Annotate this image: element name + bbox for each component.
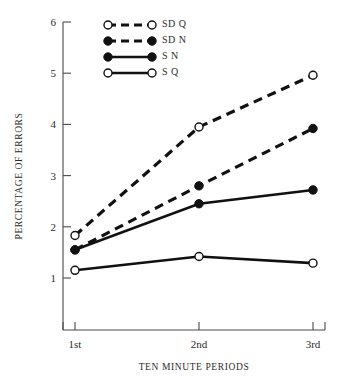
legend-marker [148,53,156,61]
legend-marker [104,69,112,77]
chart-series [71,186,317,254]
legend-item: S N [104,50,179,61]
legend-item: SD Q [104,18,187,29]
legend-marker [104,53,112,61]
y-tick-label: 4 [51,118,57,130]
data-point-marker [309,71,317,79]
legend-item: SD N [104,34,187,45]
x-axis-ticks: 1st2nd3rd [69,322,321,350]
legend-item: S Q [104,66,179,77]
series-line [75,190,313,250]
chart-series [71,252,317,274]
legend-marker [148,21,156,29]
data-point-marker [71,246,79,254]
legend-marker [148,69,156,77]
series-line [75,128,313,249]
y-tick-label: 3 [51,170,57,182]
legend-marker [104,21,112,29]
data-point-marker [309,186,317,194]
y-tick-label: 6 [51,16,57,28]
chart-figure: 123456 1st2nd3rd SD QSD NS NS Q TEN MINU… [0,0,352,386]
chart-series [71,71,317,239]
y-tick-label: 2 [51,221,57,233]
data-point-marker [71,266,79,274]
legend-label: S N [162,50,179,61]
y-axis-ticks: 123456 [51,16,72,284]
data-point-marker [309,259,317,267]
data-point-marker [195,252,203,260]
legend-marker [104,37,112,45]
data-point-marker [71,232,79,240]
x-tick-label: 3rd [306,338,321,350]
series-line [75,256,313,270]
chart-series [71,124,317,254]
chart-legend: SD QSD NS NS Q [104,18,187,77]
data-point-marker [195,200,203,208]
data-point-marker [195,182,203,190]
x-tick-label: 2nd [191,338,208,350]
legend-label: S Q [162,66,179,77]
legend-marker [148,37,156,45]
line-chart: 123456 1st2nd3rd SD QSD NS NS Q TEN MINU… [0,0,352,386]
y-tick-label: 5 [51,67,57,79]
x-axis-title: TEN MINUTE PERIODS [139,362,250,372]
data-point-marker [309,124,317,132]
legend-label: SD N [162,34,187,45]
legend-label: SD Q [162,18,187,29]
series-line [75,75,313,235]
x-tick-label: 1st [69,338,82,350]
y-axis-title: PERCENTAGE OF ERRORS [14,113,24,240]
chart-axes [63,22,325,330]
y-tick-label: 1 [51,272,57,284]
data-point-marker [195,123,203,131]
chart-series-group [71,71,317,274]
